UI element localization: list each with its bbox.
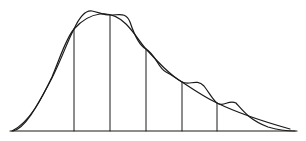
- wavy-approximation-curve: [13, 11, 295, 131]
- diagram-svg: [0, 0, 306, 141]
- smooth-curve: [12, 14, 290, 131]
- spline-approximation-diagram: [0, 0, 306, 141]
